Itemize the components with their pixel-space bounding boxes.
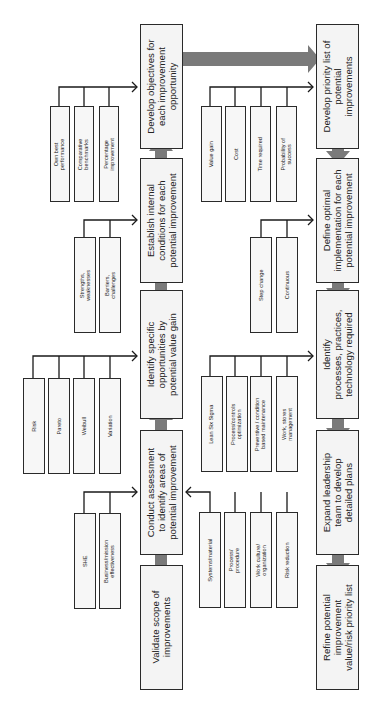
input-label: Step change xyxy=(258,269,264,300)
input-risk: Risk xyxy=(23,378,45,474)
step-identify-processes: Identify processes, practices, technolog… xyxy=(316,290,359,419)
step-label: Establish internal conditions for each p… xyxy=(145,173,178,267)
input-weibull: Weibull xyxy=(73,378,95,474)
input-preventive-maintenance: Preventive / condition based maintenance xyxy=(250,376,272,472)
input-step-change: Step change xyxy=(250,237,272,333)
input-label: Work culture/ organization xyxy=(255,544,268,577)
step-label: Identify processes, practices, technolog… xyxy=(321,309,354,399)
step-refine-priority: Refine potential improvement value/risk … xyxy=(316,565,359,690)
input-label: Cost xyxy=(232,148,238,160)
input-process-controls: Process/controls optimization xyxy=(226,376,248,472)
input-strengths: Strengths, weaknesses xyxy=(74,237,96,333)
input-label: Barriers, challenges xyxy=(104,272,117,299)
input-process-procedure: Process/ procedure xyxy=(224,512,246,608)
step-label: Conduct assessment to identify areas of … xyxy=(145,445,178,539)
step-expand-leadership: Expand leadership team to develop detail… xyxy=(316,430,359,555)
input-cost: Cost xyxy=(225,106,246,202)
input-label: Comparative benchmarks xyxy=(78,138,91,170)
input-label: Strengths, weaknesses xyxy=(79,270,92,301)
input-business-mission: Business/mission effectiveness xyxy=(99,513,121,609)
step-conduct-assessment: Conduct assessment to identify areas of … xyxy=(140,430,183,555)
input-label: Process/controls optimization xyxy=(231,403,244,444)
input-work-culture: Work culture/ organization xyxy=(250,512,272,608)
input-percentage: Percentage improvement xyxy=(99,106,119,202)
input-pareto: Pareto xyxy=(48,378,70,474)
input-work-stores: Work, stores management xyxy=(276,376,298,472)
arrow-develop-to-priority xyxy=(183,45,320,73)
input-label: Process/ procedure xyxy=(229,547,242,572)
input-systems-material: Systems/material xyxy=(199,512,221,608)
input-label: Risk reduction xyxy=(284,542,290,577)
step-label: Identify specific opportunities by poten… xyxy=(145,313,178,396)
input-label: Own best performance xyxy=(54,138,67,169)
step-label: Validate scope of improvements xyxy=(150,591,172,664)
input-label: Time required xyxy=(257,137,263,171)
input-own-best: Own best performance xyxy=(50,106,70,202)
input-label: Variation xyxy=(107,415,113,437)
step-label: Define optimal implementation for each p… xyxy=(321,169,354,271)
input-time-required: Time required xyxy=(250,106,271,202)
input-label: Business/mission effectiveness xyxy=(104,539,117,582)
input-label: Lean Six Sigma xyxy=(209,404,215,443)
input-label: Weibull xyxy=(81,417,87,435)
step-define-implementation: Define optimal implementation for each p… xyxy=(316,158,359,283)
input-label: Work, stores management xyxy=(281,408,294,441)
input-probability: Probability of success xyxy=(276,106,297,202)
input-label: Percentage improvement xyxy=(103,138,116,170)
step-establish-conditions: Establish internal conditions for each p… xyxy=(140,158,183,283)
step-develop-objectives: Develop objectives for each improvement … xyxy=(140,24,183,149)
input-label: SHE xyxy=(82,555,88,567)
input-comparative: Comparative benchmarks xyxy=(74,106,94,202)
input-label: Preventive / condition based maintenance xyxy=(255,397,268,450)
input-she: SHE xyxy=(74,513,96,609)
step-label: Develop priority list of potential impro… xyxy=(321,41,354,133)
input-variation: Variation xyxy=(99,378,121,474)
step-develop-priority-list: Develop priority list of potential impro… xyxy=(316,24,359,149)
input-label: Pareto xyxy=(56,418,62,434)
input-barriers: Barriers, challenges xyxy=(99,237,121,333)
input-label: Value gain xyxy=(208,141,214,167)
step-identify-opportunities: Identify specific opportunities by poten… xyxy=(140,290,183,419)
input-label: Systems/material xyxy=(207,539,213,582)
step-label: Develop objectives for each improvement … xyxy=(145,39,178,133)
input-lean-six-sigma: Lean Six Sigma xyxy=(201,376,223,472)
input-label: Continuous xyxy=(284,271,290,299)
step-validate-scope: Validate scope of improvements xyxy=(140,565,183,690)
input-label: Risk xyxy=(31,421,37,432)
input-continuous: Continuous xyxy=(276,237,298,333)
step-label: Expand leadership team to develop detail… xyxy=(321,453,354,532)
step-label: Refine potential improvement value/risk … xyxy=(321,584,354,670)
input-risk-reduction: Risk reduction xyxy=(276,512,298,608)
input-value-gain: Value gain xyxy=(201,106,222,202)
input-label: Probability of success xyxy=(280,138,293,170)
